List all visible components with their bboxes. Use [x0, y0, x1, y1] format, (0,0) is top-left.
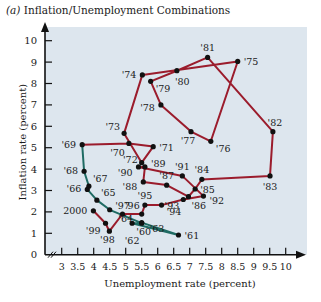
data-point-label: '79 — [156, 83, 171, 94]
y-tick-label: 9 — [31, 57, 37, 68]
x-tick-label: 6 — [155, 261, 161, 272]
data-point — [188, 129, 193, 134]
data-point-label: '89 — [151, 158, 166, 169]
data-point — [270, 129, 275, 134]
data-point — [139, 221, 144, 226]
x-tick-label: 6.5 — [166, 261, 181, 272]
data-point-label: '67 — [93, 173, 108, 184]
data-point-label: '77 — [181, 135, 196, 146]
data-point-label: '97 — [115, 200, 130, 211]
data-point-label: '82 — [268, 117, 283, 128]
data-point — [140, 72, 145, 77]
data-point — [139, 211, 144, 216]
data-point — [136, 164, 141, 169]
data-point — [142, 202, 147, 207]
data-point-label: '66 — [67, 183, 82, 194]
data-point-label: '74 — [122, 69, 137, 80]
data-point — [174, 68, 179, 73]
data-point — [82, 169, 87, 174]
data-point — [193, 186, 198, 191]
data-point — [158, 102, 163, 107]
data-point — [199, 177, 204, 182]
data-point — [208, 139, 213, 144]
y-tick-label: 3 — [31, 185, 37, 196]
data-point — [164, 183, 169, 188]
data-point — [107, 207, 112, 212]
data-point-label: '86 — [191, 200, 206, 211]
data-point-label: '87 — [159, 170, 174, 181]
y-tick-label: 0 — [31, 249, 37, 260]
y-tick-label: 2 — [31, 206, 37, 217]
data-point-label: '84 — [195, 164, 210, 175]
y-tick-label: 6 — [31, 121, 37, 132]
data-point — [148, 79, 153, 84]
x-tick-label: 4.5 — [102, 261, 117, 272]
x-tick-label: 3.5 — [70, 261, 85, 272]
x-tick-label: 10 — [280, 261, 292, 272]
data-point-label: '72 — [123, 154, 138, 165]
data-point — [91, 208, 96, 213]
y-tick-label: 1 — [31, 228, 37, 239]
data-point — [141, 179, 146, 184]
data-point-label: '85 — [200, 184, 215, 195]
data-point-label: '69 — [61, 139, 76, 150]
x-tick-label: 5.5 — [134, 261, 149, 272]
data-point — [201, 193, 206, 198]
data-point-label: '88 — [123, 181, 138, 192]
data-point — [180, 173, 185, 178]
data-point — [151, 144, 156, 149]
data-point — [107, 229, 112, 234]
x-tick-label: 4 — [91, 261, 97, 272]
x-tick-label: 7 — [187, 261, 193, 272]
y-tick-label: 8 — [31, 78, 37, 89]
y-axis-label: Inflation rate (percent) — [17, 91, 28, 201]
data-point-label: '71 — [159, 142, 174, 153]
data-point — [186, 194, 191, 199]
y-tick-label: 7 — [31, 99, 37, 110]
x-tick-label: 3 — [59, 261, 65, 272]
x-tick-label: 7.5 — [198, 261, 213, 272]
x-tick-label: 9 — [251, 261, 257, 272]
data-point — [86, 184, 91, 189]
data-point-label: '95 — [138, 190, 153, 201]
phillips-curve-chart: 01234567891033.544.555.566.577.588.599.5… — [0, 0, 321, 302]
data-point — [120, 211, 125, 216]
data-point — [80, 142, 85, 147]
data-point-label: '99 — [86, 225, 101, 236]
y-tick-label: 10 — [24, 35, 37, 46]
data-point-label: '68 — [63, 165, 78, 176]
data-point-label: '81 — [200, 42, 215, 53]
data-point — [235, 59, 240, 64]
data-point-label: '63 — [150, 223, 165, 234]
data-point-label: '90 — [118, 167, 133, 178]
data-point — [181, 197, 186, 202]
y-tick-label: 4 — [31, 164, 37, 175]
data-point-label: '94 — [167, 206, 182, 217]
data-point-label: '61 — [185, 230, 200, 241]
data-point-label: '92 — [209, 195, 224, 206]
plot-background — [45, 27, 307, 255]
data-point-label: '65 — [101, 187, 116, 198]
data-point-label: '76 — [216, 143, 231, 154]
data-point — [142, 164, 147, 169]
data-point-label: 2000 — [63, 205, 87, 216]
data-point — [126, 141, 131, 146]
x-tick-label: 5 — [123, 261, 129, 272]
x-tick-label: 8 — [219, 261, 225, 272]
data-point — [94, 198, 99, 203]
data-point — [205, 55, 210, 60]
data-point — [159, 202, 164, 207]
data-point — [103, 221, 108, 226]
data-point-label: '91 — [175, 161, 190, 172]
data-point-label: '62 — [125, 235, 140, 246]
data-point-label: '78 — [140, 102, 155, 113]
data-point-label: '80 — [175, 76, 190, 87]
data-point — [139, 160, 144, 165]
x-axis-label: Unemployment rate (percent) — [100, 278, 260, 289]
data-point-label: '73 — [105, 121, 120, 132]
x-tick-label: 9.5 — [262, 261, 277, 272]
data-point-label: '75 — [244, 56, 259, 67]
data-point — [122, 131, 127, 136]
data-point-label: '98 — [100, 234, 115, 245]
data-point — [267, 173, 272, 178]
